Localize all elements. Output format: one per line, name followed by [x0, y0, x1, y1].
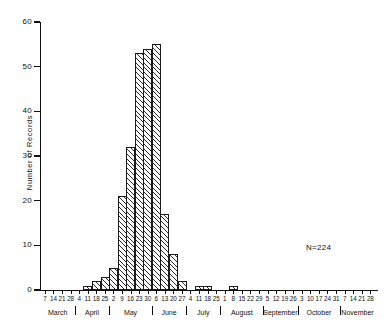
month-separator [109, 306, 110, 315]
x-tick [105, 290, 106, 294]
x-tick [53, 290, 54, 294]
x-tick-label: 14 [50, 295, 57, 302]
x-tick [79, 290, 80, 294]
y-tick [34, 200, 40, 201]
x-tick [122, 290, 123, 294]
x-tick-label: 11 [85, 295, 91, 302]
month-label: April [85, 309, 99, 316]
x-tick-label: 25 [101, 295, 108, 302]
month-label: November [341, 309, 373, 316]
x-tick-label: 31 [333, 295, 340, 302]
x-tick-label: 12 [273, 295, 280, 302]
histogram-figure: Number of Records 0102030405060 71421284… [0, 0, 389, 323]
x-tick-label: 16 [127, 295, 134, 302]
x-tick-label: 14 [350, 295, 357, 302]
x-tick-label: 25 [213, 295, 220, 302]
x-tick-label: 11 [196, 295, 202, 302]
x-tick-label: 7 [343, 295, 346, 302]
x-tick [139, 290, 140, 294]
month-separator [298, 306, 299, 315]
x-tick [173, 290, 174, 294]
x-tick [208, 290, 209, 294]
y-tick-label: 30 [14, 151, 32, 160]
y-tick [34, 66, 40, 67]
x-tick-label: 7 [43, 295, 46, 302]
x-tick [250, 290, 251, 294]
x-tick [353, 290, 354, 294]
histogram-bar [229, 286, 238, 290]
y-tick [34, 155, 40, 156]
x-tick [233, 290, 234, 294]
x-tick [165, 290, 166, 294]
x-tick [71, 290, 72, 294]
month-label: July [197, 309, 209, 316]
y-tick [34, 289, 40, 290]
month-label: May [124, 309, 137, 316]
x-tick [131, 290, 132, 294]
x-tick [276, 290, 277, 294]
month-label: August [231, 309, 253, 316]
month-label: June [161, 309, 176, 316]
y-tick-label: 50 [14, 62, 32, 71]
x-tick [370, 290, 371, 294]
x-tick [96, 290, 97, 294]
x-tick-label: 8 [232, 295, 235, 302]
y-tick-label: 10 [14, 240, 32, 249]
sample-size-annotation: N=224 [306, 243, 331, 252]
y-tick-label: 60 [14, 17, 32, 26]
x-tick [62, 290, 63, 294]
x-tick-label: 28 [67, 295, 74, 302]
x-tick [216, 290, 217, 294]
x-tick [336, 290, 337, 294]
x-tick [45, 290, 46, 294]
month-label: March [48, 309, 67, 316]
y-tick [34, 111, 40, 112]
x-tick [362, 290, 363, 294]
x-tick [345, 290, 346, 294]
x-tick-label: 3 [300, 295, 303, 302]
x-tick-label: 9 [120, 295, 123, 302]
x-tick [156, 290, 157, 294]
x-tick-label: 24 [324, 295, 331, 302]
x-tick [302, 290, 303, 294]
x-tick-label: 21 [59, 295, 66, 302]
x-tick [293, 290, 294, 294]
x-tick-label: 18 [204, 295, 211, 302]
y-tick [34, 21, 40, 22]
x-tick-label: 18 [93, 295, 100, 302]
x-tick [88, 290, 89, 294]
y-tick-label: 0 [14, 285, 32, 294]
x-tick [190, 290, 191, 294]
month-label: October [306, 309, 331, 316]
month-separator [186, 306, 187, 315]
month-separator [75, 306, 76, 315]
x-tick-label: 4 [77, 295, 80, 302]
month-label: September [263, 309, 297, 316]
x-tick-label: 1 [223, 295, 226, 302]
y-tick [34, 245, 40, 246]
x-tick [148, 290, 149, 294]
x-tick-label: 29 [256, 295, 263, 302]
x-tick-label: 17 [316, 295, 323, 302]
month-separator [152, 306, 153, 315]
x-tick [310, 290, 311, 294]
x-tick-label: 28 [367, 295, 374, 302]
x-tick-label: 6 [155, 295, 158, 302]
x-tick-label: 20 [170, 295, 177, 302]
y-axis-line [40, 22, 41, 290]
x-tick [225, 290, 226, 294]
x-tick-label: 22 [247, 295, 254, 302]
x-tick-label: 5 [266, 295, 269, 302]
x-tick [182, 290, 183, 294]
x-tick-label: 10 [307, 295, 314, 302]
x-tick-label: 19 [281, 295, 288, 302]
y-tick-label: 40 [14, 106, 32, 115]
x-tick-label: 21 [358, 295, 365, 302]
x-tick-label: 23 [136, 295, 143, 302]
x-tick-label: 15 [238, 295, 245, 302]
x-tick-label: 13 [161, 295, 168, 302]
histogram-bar [203, 286, 212, 290]
x-tick-label: 27 [179, 295, 186, 302]
histogram-bar [178, 281, 187, 290]
x-tick [242, 290, 243, 294]
